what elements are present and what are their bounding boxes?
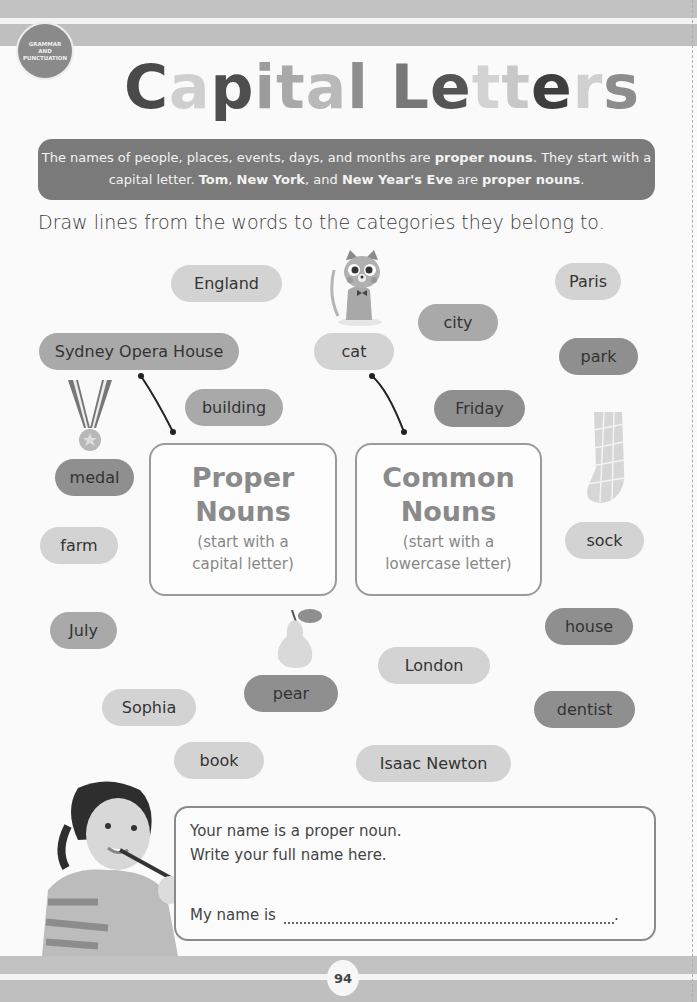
- word-pill-city[interactable]: city: [418, 304, 498, 341]
- info-text: The names of people, places, events, day…: [42, 150, 435, 165]
- title-letter: i: [255, 52, 277, 122]
- info-text: , and: [305, 172, 342, 187]
- title-letter: e: [430, 52, 472, 122]
- sock-illustration-icon: [582, 410, 634, 506]
- category-proper-sub-1: (start with a: [151, 531, 335, 553]
- section-badge: GRAMMAR AND PUNCTUATION: [16, 22, 74, 80]
- word-pill-isaac-newton[interactable]: Isaac Newton: [356, 745, 511, 782]
- category-common-sub-2: lowercase letter): [357, 553, 540, 575]
- word-pill-park[interactable]: park: [559, 338, 638, 375]
- title-letter: r: [573, 52, 604, 122]
- word-pill-dentist[interactable]: dentist: [534, 691, 635, 728]
- word-pill-friday[interactable]: Friday: [434, 390, 525, 427]
- info-box: The names of people, places, events, day…: [38, 139, 655, 200]
- title-letter: a: [169, 52, 211, 122]
- title-letter: t: [501, 52, 531, 122]
- word-pill-paris[interactable]: Paris: [555, 263, 621, 300]
- word-pill-sydney-opera-house[interactable]: Sydney Opera House: [39, 333, 239, 370]
- page-title: Capital Letters: [124, 52, 640, 122]
- word-pill-sophia[interactable]: Sophia: [102, 689, 196, 726]
- title-letter: t: [276, 52, 306, 122]
- girl-illustration-icon: [38, 780, 188, 956]
- category-common-title-2: Nouns: [357, 495, 540, 529]
- info-bold: New Year's Eve: [342, 172, 453, 187]
- section-badge-line1: GRAMMAR: [29, 41, 61, 48]
- example-connector-line: [135, 370, 185, 440]
- info-bold: proper nouns: [482, 172, 580, 187]
- word-pill-house[interactable]: house: [545, 608, 633, 645]
- word-pill-farm[interactable]: farm: [40, 527, 118, 564]
- word-pill-building[interactable]: building: [185, 389, 283, 426]
- top-band: [0, 0, 697, 18]
- category-proper-nouns[interactable]: Proper Nouns (start with a capital lette…: [149, 443, 337, 596]
- info-text: ,: [228, 172, 236, 187]
- title-letter: l: [347, 52, 369, 122]
- word-pill-sock[interactable]: sock: [565, 522, 644, 559]
- section-badge-line2: AND: [38, 48, 51, 55]
- pear-illustration-icon: [270, 606, 326, 670]
- category-common-sub-1: (start with a: [357, 531, 540, 553]
- name-row: My name is .: [190, 906, 619, 924]
- word-pill-england[interactable]: England: [171, 265, 282, 302]
- category-proper-title-1: Proper: [151, 461, 335, 495]
- word-pill-medal[interactable]: medal: [55, 459, 134, 496]
- top-band-lower: [0, 24, 697, 46]
- info-bold: proper nouns: [435, 150, 533, 165]
- title-letter: p: [211, 52, 255, 122]
- category-common-nouns[interactable]: Common Nouns (start with a lowercase let…: [355, 443, 542, 596]
- name-box-line2: Write your full name here.: [190, 846, 387, 864]
- name-input[interactable]: [284, 908, 614, 924]
- title-letter: L: [391, 52, 430, 122]
- title-letter: e: [531, 52, 573, 122]
- title-letter: C: [124, 52, 169, 122]
- category-proper-title-2: Nouns: [151, 495, 335, 529]
- info-text: are: [453, 172, 482, 187]
- example-connector-line: [366, 370, 416, 440]
- word-pill-london[interactable]: London: [378, 647, 490, 684]
- word-pill-pear[interactable]: pear: [244, 675, 338, 712]
- info-text: .: [580, 172, 584, 187]
- page-number: 94: [327, 960, 359, 996]
- name-box-line1: Your name is a proper noun.: [190, 822, 402, 840]
- cat-illustration-icon: [328, 250, 392, 326]
- word-pill-july[interactable]: July: [50, 612, 117, 649]
- title-letter: s: [603, 52, 640, 122]
- medal-illustration-icon: [64, 378, 116, 454]
- instruction: Draw lines from the words to the categor…: [38, 211, 605, 233]
- title-letter: [369, 52, 391, 122]
- name-box: Your name is a proper noun. Write your f…: [174, 806, 656, 941]
- category-common-title-1: Common: [357, 461, 540, 495]
- word-pill-cat[interactable]: cat: [314, 333, 394, 370]
- info-bold: Tom: [199, 172, 229, 187]
- word-pill-book[interactable]: book: [174, 742, 264, 779]
- title-letter: t: [472, 52, 502, 122]
- title-letter: a: [306, 52, 348, 122]
- page-margin-line: [692, 0, 693, 1002]
- name-prompt: My name is: [190, 906, 276, 924]
- section-badge-line3: PUNCTUATION: [23, 55, 67, 62]
- info-bold: New York: [237, 172, 305, 187]
- name-end-period: .: [614, 906, 619, 924]
- category-proper-sub-2: capital letter): [151, 553, 335, 575]
